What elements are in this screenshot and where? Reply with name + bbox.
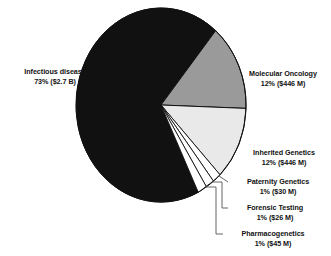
- slice-label-infectious-disease: Infectious disease 73% ($2.7 B): [6, 67, 104, 86]
- pie-chart: Infectious disease 73% ($2.7 B) Molecula…: [0, 0, 331, 256]
- slice-label-inherited-genetics: Inherited Genetics 12% ($446 M): [239, 148, 329, 167]
- slice-label-value: 12% ($446 M): [236, 79, 330, 89]
- pie-slices: [76, 8, 246, 202]
- slice-label-value: 1% ($45 M): [220, 239, 326, 249]
- slice-label-value: 12% ($446 M): [239, 158, 329, 168]
- slice-label-value: 1% ($30 M): [228, 187, 328, 197]
- leader-line-paternity-genetics: [219, 176, 228, 182]
- slice-label-name: Inherited Genetics: [239, 148, 329, 158]
- slice-label-name: Infectious disease: [6, 67, 104, 77]
- leader-line-pharmacogenetics: [205, 187, 223, 234]
- slice-label-pharmacogenetics: Pharmacogenetics 1% ($45 M): [220, 229, 326, 248]
- slice-label-forensic-testing: Forensic Testing 1% ($26 M): [224, 203, 326, 222]
- slice-label-name: Pharmacogenetics: [220, 229, 326, 239]
- slice-label-value: 1% ($26 M): [224, 213, 326, 223]
- slice-label-name: Molecular Oncology: [236, 69, 330, 79]
- slice-label-name: Paternity Genetics: [228, 177, 328, 187]
- slice-label-name: Forensic Testing: [224, 203, 326, 213]
- slice-label-value: 73% ($2.7 B): [6, 77, 104, 87]
- slice-label-paternity-genetics: Paternity Genetics 1% ($30 M): [228, 177, 328, 196]
- slice-label-molecular-oncology: Molecular Oncology 12% ($446 M): [236, 69, 330, 88]
